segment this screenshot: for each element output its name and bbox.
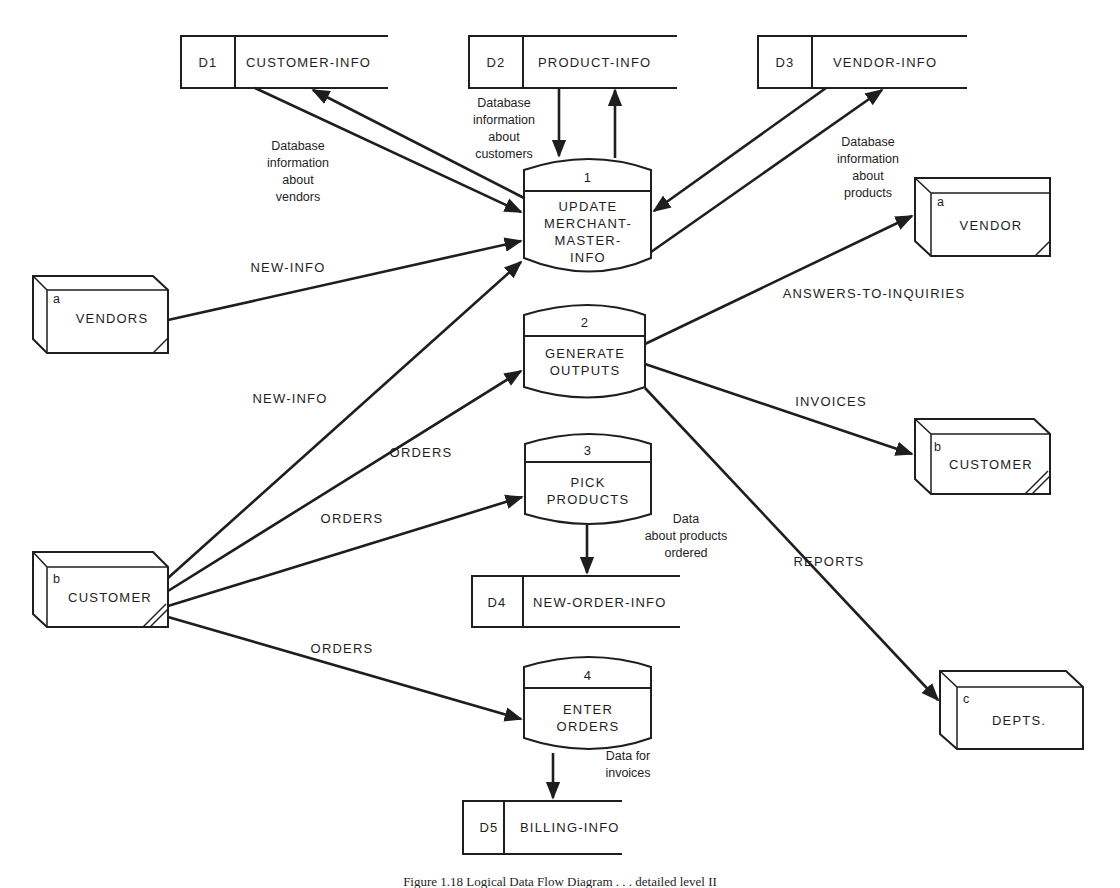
label-answers-to-inquiries: ANSWERS-TO-INQUIRIES [783,286,966,301]
label-reports: REPORTS [793,554,864,569]
data-flow-diagram: D1 CUSTOMER-INFO D2 PRODUCT-INFO D3 VEND… [0,0,1120,888]
data-store-id: D1 [198,55,217,70]
entity-letter: a [937,195,944,209]
svg-text:about: about [852,169,884,183]
process-label: MASTER- [555,233,622,248]
svg-text:information: information [267,156,329,170]
flow-invoices [645,364,912,454]
flow-p1-to-d3 [651,90,882,252]
flow-customer-orders-p4 [168,617,521,719]
label-orders-p4: ORDERS [311,641,374,656]
label-invoices: INVOICES [795,394,867,409]
data-store-name: PRODUCT-INFO [538,55,651,70]
data-store-d5: D5 BILLING-INFO [463,801,622,854]
process-4: 4 ENTER ORDERS [524,657,651,749]
label-vendors-new-info: NEW-INFO [250,260,325,275]
process-number: 2 [581,315,589,330]
process-label: OUTPUTS [550,363,621,378]
process-label: UPDATE [559,199,618,214]
entity-name: CUSTOMER [949,457,1033,472]
label-d1-desc: Database information about vendors [267,139,329,204]
svg-text:about: about [282,173,314,187]
entity-name: CUSTOMER [68,590,152,605]
svg-text:ordered: ordered [664,546,707,560]
data-store-d1: D1 CUSTOMER-INFO [181,36,388,88]
process-label: INFO [570,250,606,265]
external-entity-vendors: a VENDORS [33,276,168,353]
data-store-d3: D3 VENDOR-INFO [758,36,967,88]
svg-text:products: products [844,186,892,200]
entity-letter: a [53,292,60,306]
svg-text:about products: about products [645,529,728,543]
data-store-name: CUSTOMER-INFO [246,55,371,70]
external-entity-customer-sink: b CUSTOMER [915,419,1050,494]
svg-text:Data: Data [673,512,699,526]
data-store-name: VENDOR-INFO [833,55,937,70]
label-orders-p3: ORDERS [321,511,384,526]
entity-name: DEPTS. [992,713,1046,728]
flow-d3-to-p1 [654,88,826,211]
external-entity-depts: c DEPTS. [940,671,1083,749]
entity-name: VENDOR [960,218,1023,233]
process-label: PICK [570,475,605,490]
process-2: 2 GENERATE OUTPUTS [524,305,645,398]
process-1: 1 UPDATE MERCHANT- MASTER- INFO [524,159,651,272]
data-store-id: D2 [486,55,505,70]
svg-text:Data for: Data for [606,749,650,763]
svg-text:information: information [473,113,535,127]
data-store-name: NEW-ORDER-INFO [533,595,667,610]
label-d2-desc: Database information about customers [473,96,535,161]
flow-answers-to-inquiries [645,216,912,344]
svg-text:information: information [837,152,899,166]
external-entity-customer-source: b CUSTOMER [33,552,168,627]
process-label: MERCHANT- [544,216,632,231]
svg-text:Database: Database [841,135,895,149]
svg-text:customers: customers [475,147,533,161]
process-3: 3 PICK PRODUCTS [525,434,651,524]
entity-letter: b [53,572,60,586]
entity-letter: c [963,692,969,706]
svg-text:Database: Database [271,139,325,153]
process-number: 4 [584,668,592,683]
svg-text:vendors: vendors [276,190,320,204]
process-label: ORDERS [557,719,620,734]
svg-text:about: about [488,130,520,144]
label-d5-desc: Data for invoices [605,749,650,780]
label-customer-new-info: NEW-INFO [252,391,327,406]
data-store-id: D5 [479,820,498,835]
svg-text:invoices: invoices [605,766,650,780]
process-label: GENERATE [545,346,625,361]
process-number: 1 [584,170,592,185]
external-entity-vendor: a VENDOR [915,178,1050,256]
figure-caption: Figure 1.18 Logical Data Flow Diagram . … [403,874,717,888]
entity-name: VENDORS [76,311,149,326]
data-store-id: D3 [775,55,794,70]
flow-reports [645,388,938,700]
process-label: PRODUCTS [547,492,630,507]
data-store-d2: D2 PRODUCT-INFO [469,36,677,88]
data-store-id: D4 [487,595,506,610]
data-store-name: BILLING-INFO [520,820,620,835]
process-label: ENTER [563,702,613,717]
flow-customer-orders-p2 [168,371,521,591]
svg-text:Database: Database [477,96,531,110]
process-number: 3 [584,443,592,458]
label-d3-desc: Database information about products [837,135,899,200]
entity-letter: b [934,440,941,454]
label-d4-desc: Data about products ordered [645,512,728,560]
data-store-d4: D4 NEW-ORDER-INFO [472,576,680,627]
label-orders-p2: ORDERS [390,445,453,460]
